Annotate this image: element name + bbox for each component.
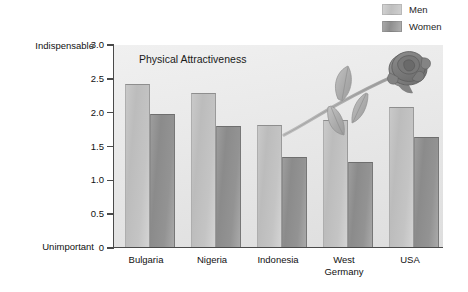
legend-label-women: Women — [409, 21, 442, 32]
y-tick-label: 2.5 — [78, 74, 104, 84]
bar-women-bulgaria — [150, 114, 175, 247]
bar-women-west-germany — [348, 162, 373, 247]
bar-women-nigeria — [216, 126, 241, 247]
y-tick-label: 3.0 — [78, 40, 104, 50]
legend-swatch-men — [382, 4, 402, 15]
bar-men-usa — [389, 107, 414, 247]
plot-area: Physical Attractiveness — [113, 45, 443, 248]
x-axis-label-west-germany: West Germany — [311, 254, 377, 277]
y-tick-label: 2.0 — [78, 108, 104, 118]
legend-swatch-women — [382, 21, 402, 32]
bar-men-indonesia — [257, 125, 282, 247]
y-tick-label: 1.5 — [78, 142, 104, 152]
x-axis-label-usa: USA — [377, 254, 443, 266]
bar-men-bulgaria — [125, 84, 150, 247]
x-axis-label-indonesia: Indonesia — [245, 254, 311, 266]
x-axis-label-nigeria: Nigeria — [179, 254, 245, 266]
chart-title: Physical Attractiveness — [139, 53, 246, 65]
bar-women-usa — [414, 137, 439, 247]
bar-men-nigeria — [191, 93, 216, 247]
legend-item-women: Women — [382, 19, 466, 33]
bar-women-indonesia — [282, 157, 307, 247]
x-axis-label-bulgaria: Bulgaria — [113, 254, 179, 266]
chart-legend: Men Women — [382, 2, 466, 36]
legend-item-men: Men — [382, 2, 466, 16]
y-tick-label: 0.5 — [78, 209, 104, 219]
y-tick-label: 1.0 — [78, 175, 104, 185]
bar-men-west-germany — [323, 120, 348, 247]
y-tick-label: 0 — [78, 243, 104, 253]
legend-label-men: Men — [409, 4, 427, 15]
